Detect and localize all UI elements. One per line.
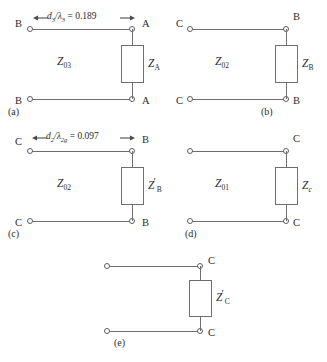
terminal-label-b-top-right: B: [293, 12, 300, 23]
line-impedance-label-a: Z03: [57, 56, 71, 68]
line-impedance-label-d: Z01: [215, 178, 229, 190]
load-impedance-sub-d: c: [308, 185, 311, 194]
wire-c-top: [31, 151, 132, 152]
sublabel-e: (e): [114, 338, 125, 348]
sublabel-c: (c): [8, 229, 19, 239]
terminal-d-bottom-left: [187, 218, 193, 224]
line-impedance-label-b: Z02: [215, 56, 229, 68]
wire-d-top: [191, 151, 286, 152]
terminal-label-d-top-right: C: [293, 134, 300, 145]
wire-b-stub-bottom: [286, 83, 287, 99]
terminal-a-bottom-left: [27, 96, 33, 102]
impedance-box-c: [121, 167, 144, 205]
dimension-equals-c: =: [67, 131, 77, 141]
load-impedance-label-e: Z′C: [216, 292, 230, 304]
terminal-d-top-left: [187, 148, 193, 154]
terminal-b-top-left: [187, 26, 193, 32]
wire-b-bottom: [191, 99, 286, 100]
terminal-a-top-left: [27, 26, 33, 32]
dimension-left-arrow-c: [32, 133, 48, 143]
line-impedance-label-c: Z02: [57, 178, 71, 190]
load-impedance-sub-e: C: [225, 297, 230, 306]
terminal-label-a-bottom-right: A: [142, 96, 150, 107]
line-impedance-sub-a: 03: [63, 61, 71, 70]
circuit-a: d3/λ3 = 0.189 B A B A Z: [0, 0, 160, 118]
terminal-label-c-top-right: B: [142, 135, 149, 146]
terminal-label-b-top-left: C: [176, 19, 183, 30]
terminal-label-a-bottom-left: B: [15, 96, 22, 107]
wire-b-top: [191, 29, 286, 30]
dimension-label-c: d2/λ2g = 0.097: [46, 132, 99, 142]
wire-a-top: [31, 29, 132, 30]
terminal-label-b-bottom-right: B: [293, 96, 300, 107]
wire-c-stub-bottom: [132, 205, 133, 221]
circuit-b: C B C B Z02 ZB (b): [163, 0, 327, 118]
circuit-c: d2/λ2g = 0.097 C B C B Z02 Z′B (c): [0, 122, 160, 240]
terminal-e-top-left: [104, 263, 110, 269]
load-impedance-sub-c: B: [157, 185, 162, 194]
wire-c-bottom: [31, 221, 132, 222]
wire-d-stub-bottom: [286, 205, 287, 221]
load-impedance-label-a: ZA: [148, 58, 160, 70]
sublabel-a: (a): [8, 107, 19, 117]
sublabel-d: (d): [185, 229, 197, 239]
terminal-label-e-bottom-right: C: [208, 328, 215, 339]
circuit-e: C C Z′C (e): [84, 252, 259, 362]
wire-d-bottom: [191, 221, 286, 222]
figure-transmission-line-circuits: d3/λ3 = 0.189 B A B A Z: [0, 0, 327, 362]
sublabel-b: (b): [261, 107, 273, 117]
dimension-right-arrow-a: [120, 13, 136, 23]
wire-a-stub-top: [132, 29, 133, 45]
impedance-box-b: [275, 45, 298, 83]
dimension-value-c: 0.097: [77, 131, 98, 141]
wire-b-stub-top: [286, 29, 287, 45]
load-impedance-label-d: Zc: [302, 180, 312, 192]
line-impedance-sub-c: 02: [63, 183, 71, 192]
terminal-label-e-top-right: C: [208, 256, 215, 267]
terminal-label-c-top-left: C: [15, 137, 22, 148]
dimension-value-a: 0.189: [75, 11, 96, 21]
dimension-right-arrow-c: [120, 133, 136, 143]
impedance-box-a: [121, 45, 144, 83]
terminal-c-top-left: [27, 148, 33, 154]
load-impedance-sub-b: B: [308, 63, 313, 72]
impedance-box-e: [189, 280, 212, 317]
terminal-c-bottom-left: [27, 218, 33, 224]
impedance-box-d: [275, 167, 298, 205]
terminal-e-bottom-left: [104, 328, 110, 334]
wire-e-bottom: [108, 331, 200, 332]
wire-e-top: [108, 266, 200, 267]
load-impedance-sub-a: A: [154, 63, 159, 72]
circuit-d: C C Z01 Zc (d): [163, 122, 327, 240]
terminal-label-c-bottom-left: C: [15, 218, 22, 229]
dimension-equals-a: =: [65, 11, 75, 21]
dimension-left-arrow-a: [33, 13, 49, 23]
wire-a-bottom: [31, 99, 132, 100]
terminal-label-a-top-right: A: [142, 19, 150, 30]
load-impedance-label-b: ZB: [302, 58, 313, 70]
load-impedance-prime-e: ′: [221, 287, 223, 299]
load-impedance-label-c: Z′B: [148, 180, 162, 192]
wire-c-stub-top: [132, 151, 133, 167]
terminal-b-bottom-left: [187, 96, 193, 102]
wire-a-stub-bottom: [132, 83, 133, 99]
terminal-label-b-bottom-left: C: [176, 96, 183, 107]
load-impedance-prime-c: ′: [153, 175, 155, 187]
terminal-label-d-bottom-right: C: [293, 218, 300, 229]
wire-d-stub-top: [286, 151, 287, 167]
line-impedance-sub-b: 02: [221, 61, 229, 70]
line-impedance-sub-d: 01: [221, 183, 229, 192]
terminal-label-c-bottom-right: B: [142, 218, 149, 229]
wire-e-stub-bottom: [200, 317, 201, 331]
terminal-label-a-top-left: B: [15, 19, 22, 30]
dimension-label-a: d3/λ3 = 0.189: [47, 12, 97, 22]
wire-e-stub-top: [200, 266, 201, 280]
